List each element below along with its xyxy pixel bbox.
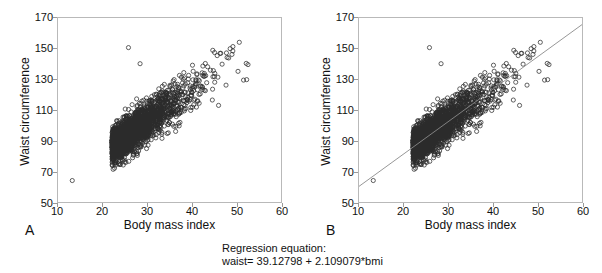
data-points — [70, 40, 250, 182]
y-tickmark-170 — [53, 17, 57, 18]
x-tickmark-20 — [403, 203, 404, 207]
y-tickmark-90 — [354, 141, 358, 142]
figure-scatter-bmi-waist: 507090110130150170 102030405060 Body mas… — [0, 0, 602, 273]
y-tickmark-110 — [354, 110, 358, 111]
data-points — [371, 40, 551, 182]
y-tickmark-130 — [354, 79, 358, 80]
caption-line-2: waist= 39.12798 + 2.109079*bmi — [222, 255, 482, 268]
x-tickmark-10 — [57, 203, 58, 207]
x-tickmark-20 — [102, 203, 103, 207]
y-tickmark-150 — [354, 48, 358, 49]
x-tickmark-50 — [538, 203, 539, 207]
x-tickmark-50 — [237, 203, 238, 207]
x-tickmark-60 — [583, 203, 584, 207]
x-tickmark-30 — [147, 203, 148, 207]
x-tickmark-10 — [358, 203, 359, 207]
y-tickmark-130 — [53, 79, 57, 80]
x-axis-ticklabels-a: 102030405060 — [57, 205, 282, 219]
y-axis-title-b: Waist circumference — [320, 32, 333, 192]
panel-b: 507090110130150170 102030405060 Body mas… — [301, 0, 602, 232]
caption-line-1: Regression equation: — [222, 242, 482, 255]
x-axis-title-a: Body mass index — [57, 218, 282, 232]
panel-label-a: A — [25, 222, 34, 238]
scatter-plot-b — [359, 18, 582, 202]
plot-area-a — [57, 17, 282, 203]
panel-a: 507090110130150170 102030405060 Body mas… — [0, 0, 301, 232]
plot-area-b — [358, 17, 583, 203]
regression-equation-caption: Regression equation: waist= 39.12798 + 2… — [222, 242, 482, 268]
panel-label-b: B — [326, 222, 335, 238]
y-tickmark-70 — [53, 172, 57, 173]
y-tickmark-50 — [354, 203, 358, 204]
x-tickmark-40 — [192, 203, 193, 207]
y-tickmark-170 — [354, 17, 358, 18]
scatter-plot-a — [58, 18, 281, 202]
y-tickmark-50 — [53, 203, 57, 204]
x-axis-title-b: Body mass index — [358, 218, 583, 232]
x-tickmark-40 — [493, 203, 494, 207]
y-tick-170: 170 — [318, 12, 354, 23]
y-axis-title-a: Waist circumference — [19, 32, 32, 192]
y-tickmark-150 — [53, 48, 57, 49]
x-tickmark-60 — [282, 203, 283, 207]
y-tickmark-110 — [53, 110, 57, 111]
x-tickmark-30 — [448, 203, 449, 207]
y-tick-170: 170 — [17, 12, 53, 23]
x-axis-ticklabels-b: 102030405060 — [358, 205, 583, 219]
y-tickmark-90 — [53, 141, 57, 142]
regression-line — [359, 25, 582, 187]
y-tickmark-70 — [354, 172, 358, 173]
